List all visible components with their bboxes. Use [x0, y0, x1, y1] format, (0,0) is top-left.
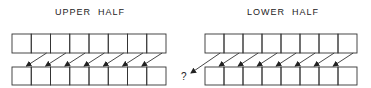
top-cell — [262, 34, 281, 53]
bottom-cell — [243, 67, 262, 85]
top-cell — [243, 34, 262, 53]
upper-half-panel — [12, 34, 166, 85]
bottom-cell — [338, 67, 357, 85]
bottom-cell — [70, 67, 89, 85]
arrow-icon — [333, 53, 353, 66]
arrow-icon — [142, 53, 162, 66]
top-cell — [89, 34, 108, 53]
arrow-icon — [103, 53, 123, 66]
bottom-cell — [205, 67, 224, 85]
arrow-icon — [276, 53, 296, 66]
arrow-icon — [314, 53, 334, 66]
arrow-icon — [26, 53, 46, 66]
bottom-cell — [128, 67, 147, 85]
top-cell — [338, 34, 357, 53]
arrow-icon — [65, 53, 85, 66]
arrow-icon — [257, 53, 277, 66]
arrow-icon — [295, 53, 315, 66]
top-cell — [205, 34, 224, 53]
top-cell — [300, 34, 319, 53]
bottom-cell — [147, 67, 166, 85]
arrow-icon — [191, 53, 220, 73]
bottom-cell — [281, 67, 300, 85]
bottom-cell — [224, 67, 243, 85]
bottom-cell — [12, 67, 31, 85]
top-cell — [51, 34, 70, 53]
lower-half-panel — [191, 34, 357, 85]
question-mark: ? — [181, 71, 187, 82]
top-cell — [147, 34, 166, 53]
arrow-icon — [84, 53, 104, 66]
top-cell — [31, 34, 50, 53]
bottom-cell — [262, 67, 281, 85]
arrow-icon — [238, 53, 258, 66]
arrow-icon — [123, 53, 143, 66]
top-cell — [281, 34, 300, 53]
bottom-cell — [31, 67, 50, 85]
bottom-cell — [108, 67, 127, 85]
top-cell — [108, 34, 127, 53]
top-cell — [70, 34, 89, 53]
top-cell — [224, 34, 243, 53]
top-cell — [12, 34, 31, 53]
top-cell — [319, 34, 338, 53]
bottom-cell — [319, 67, 338, 85]
arrow-icon — [219, 53, 239, 66]
bottom-cell — [89, 67, 108, 85]
arrow-icon — [46, 53, 66, 66]
bottom-cell — [300, 67, 319, 85]
top-cell — [128, 34, 147, 53]
bottom-cell — [51, 67, 70, 85]
